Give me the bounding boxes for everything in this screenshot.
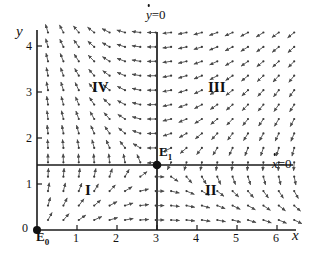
y-axis-label: y [16,24,23,39]
equilibrium-dot-E1 [153,161,162,170]
x-tick-4: 4 [193,232,199,244]
equilibrium-E0-sub: 0 [45,237,50,247]
x-tick-5: 5 [233,232,239,244]
equilibrium-E1-name: E [159,144,168,159]
equilibrium-label-E0: E0 [36,230,49,247]
region-label-IV: IV [92,80,109,95]
x-axis-label: x [292,228,299,243]
x-tick-1: 1 [73,232,79,244]
region-label-III: III [208,80,226,95]
horizontal-nullcline-label: x=0 [272,157,292,170]
y-tick-4: 4 [26,40,32,52]
x-tick-6: 6 [273,232,279,244]
horizontal-nullcline-equals: =0 [278,156,292,171]
equilibrium-E1-sub: 1 [168,152,173,162]
y-tick-3: 3 [26,86,32,98]
origin-tick-label: 0 [22,222,28,234]
y-tick-2: 2 [26,132,32,144]
y-dot-symbol: y [146,8,152,21]
vector-field-canvas [0,0,314,255]
region-label-I: I [85,183,91,198]
y-tick-1: 1 [26,178,32,190]
x-tick-2: 2 [113,232,119,244]
region-label-II: II [205,183,217,198]
direction-field-arrows [46,24,302,223]
vertical-nullcline-equals: =0 [152,7,166,22]
x-dot-symbol: x [272,157,278,170]
axis-lines [37,30,296,230]
vertical-nullcline-label: y=0 [146,8,166,21]
equilibrium-E0-name: E [36,229,45,244]
equilibrium-label-E1: E1 [159,145,172,162]
x-tick-3: 3 [153,232,159,244]
phase-portrait-figure: y x 0 1 2 3 4 5 6 1 2 3 4 y=0 x=0 E0 E1 … [0,0,314,255]
